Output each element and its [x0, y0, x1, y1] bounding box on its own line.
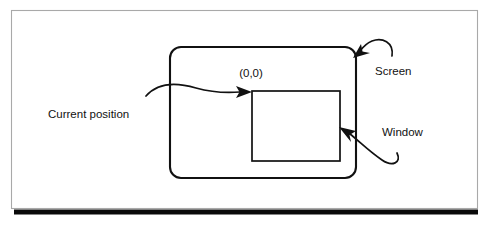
screen-arrowhead	[353, 44, 370, 58]
origin-label: (0,0)	[239, 67, 263, 79]
current-position-label: Current position	[48, 108, 129, 120]
diagram-page: (0,0) Current position Screen Window	[0, 0, 490, 226]
screen-label: Screen	[375, 65, 411, 77]
window-leader-line	[350, 134, 398, 164]
diagram-canvas: (0,0) Current position Screen Window	[0, 0, 490, 226]
window-shape	[252, 91, 340, 161]
bottom-bar	[14, 210, 478, 215]
window-label: Window	[382, 126, 424, 138]
